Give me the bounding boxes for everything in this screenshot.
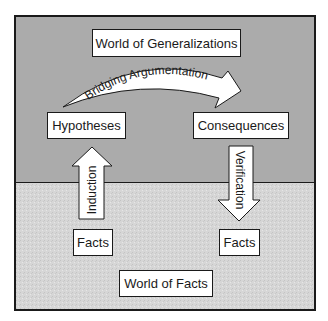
consequences-label: Consequences xyxy=(198,118,285,133)
world-of-generalizations-label: World of Generalizations xyxy=(95,36,238,51)
induction-label: Induction xyxy=(85,166,99,215)
world-of-facts-label: World of Facts xyxy=(124,276,208,291)
hypotheses-label: Hypotheses xyxy=(52,118,121,133)
facts-left-label: Facts xyxy=(77,235,109,250)
facts-left-box: Facts xyxy=(74,230,113,256)
facts-right-box: Facts xyxy=(220,230,260,256)
hypothetico-deductive-diagram: World of Generalizations Bridging Argume… xyxy=(0,0,328,321)
consequences-box: Consequences xyxy=(194,113,289,139)
facts-right-label: Facts xyxy=(224,235,256,250)
verification-label: Verification xyxy=(233,151,247,210)
world-of-facts-box: World of Facts xyxy=(120,271,213,297)
world-of-generalizations-box: World of Generalizations xyxy=(93,30,241,57)
hypotheses-box: Hypotheses xyxy=(48,113,126,139)
